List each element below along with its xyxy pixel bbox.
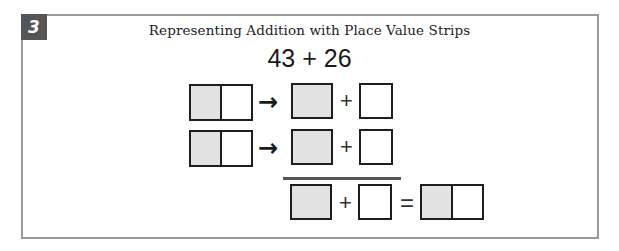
arrow-right-icon: → xyxy=(258,136,278,160)
arrow-right-icon: → xyxy=(258,90,278,114)
equals-sign: = xyxy=(400,191,414,215)
plus-sign: + xyxy=(339,192,352,214)
place-value-strip-row2 xyxy=(189,130,253,167)
tens-cell xyxy=(191,86,222,119)
tens-cell xyxy=(422,186,453,218)
ones-cell xyxy=(222,132,251,165)
tens-sum-box xyxy=(290,184,332,220)
problem-title: Representing Addition with Place Value S… xyxy=(0,22,619,38)
tens-cell xyxy=(191,132,222,165)
sum-line xyxy=(283,177,401,180)
plus-sign: + xyxy=(340,90,353,112)
ones-cell xyxy=(453,186,482,218)
ones-cell xyxy=(222,86,251,119)
tens-box-row1 xyxy=(291,83,333,119)
ones-box-row1 xyxy=(359,83,393,119)
place-value-strip-row1 xyxy=(189,84,253,121)
ones-sum-box xyxy=(358,184,392,220)
plus-sign: + xyxy=(340,136,353,158)
ones-box-row2 xyxy=(359,129,393,165)
result-place-value-strip xyxy=(420,184,484,220)
tens-box-row2 xyxy=(291,129,333,165)
addition-expression: 43 + 26 xyxy=(0,44,619,73)
